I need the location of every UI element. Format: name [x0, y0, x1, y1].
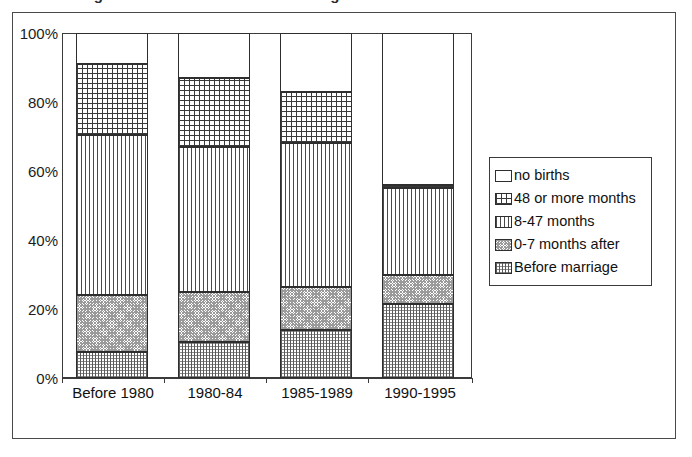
segment-48-or-more-months — [178, 78, 250, 147]
x-tick-label-1985-1989: 1985-1989 — [266, 384, 368, 401]
segment-no-births — [178, 33, 250, 78]
segment-48-or-more-months — [382, 185, 454, 189]
segment-8-47-months — [178, 147, 250, 292]
x-tick-label-1990-1995: 1990-1995 — [368, 384, 472, 401]
legend-label-48-or-more-months: 48 or more months — [514, 191, 636, 206]
y-tick-label-20: 20% — [28, 301, 58, 318]
bar-before-1980[interactable] — [76, 33, 148, 378]
legend-label-8-47-months: 8-47 months — [514, 214, 595, 229]
y-tick-label-80: 80% — [28, 94, 58, 111]
legend-item-no-births[interactable]: no births — [495, 164, 646, 187]
bar-1980-84[interactable] — [178, 33, 250, 378]
segment-8-47-months — [382, 188, 454, 274]
y-tick-label-0: 0% — [36, 370, 58, 387]
segment-0-7-months — [382, 275, 454, 304]
y-tick-label-60: 60% — [28, 163, 58, 180]
segment-8-47-months — [76, 135, 148, 295]
legend-label-before-marriage: Before marriage — [514, 260, 618, 275]
legend-item-48-or-more-months[interactable]: 48 or more months — [495, 187, 646, 210]
segment-0-7-months — [280, 287, 352, 330]
y-axis: 100% 80% 60% 40% 20% 0% — [0, 0, 58, 457]
x-axis-line — [62, 378, 473, 379]
segment-no-births — [382, 33, 454, 185]
x-tick-label-before-1980: Before 1980 — [62, 384, 164, 401]
x-tick-mark-2 — [164, 378, 165, 383]
legend-swatch-0-7-months-after-icon — [495, 239, 512, 251]
segment-48-or-more-months — [76, 64, 148, 135]
legend-item-before-marriage[interactable]: Before marriage — [495, 256, 646, 279]
legend-swatch-before-marriage-icon — [495, 262, 512, 274]
segment-0-7-months — [76, 295, 148, 352]
legend-item-8-47-months[interactable]: 8-47 months — [495, 210, 646, 233]
legend-swatch-no-births-icon — [495, 170, 512, 182]
legend-label-no-births: no births — [514, 168, 570, 183]
segment-0-7-months — [178, 292, 250, 342]
segment-48-or-more-months — [280, 92, 352, 144]
y-tick-label-100: 100% — [20, 25, 58, 42]
legend-item-0-7-months-after[interactable]: 0-7 months after — [495, 233, 646, 256]
x-tick-mark-4 — [368, 378, 369, 383]
x-tick-mark-1 — [62, 378, 63, 383]
page-title: Timing of first birth relative to marria… — [52, 0, 349, 3]
legend-swatch-8-47-months-icon — [495, 216, 512, 228]
legend: no births 48 or more months 8-47 months … — [489, 157, 652, 286]
segment-before-marriage — [382, 304, 454, 378]
segment-no-births — [280, 33, 352, 92]
x-tick-mark-5 — [472, 378, 473, 383]
bar-1985-1989[interactable] — [280, 33, 352, 378]
x-tick-mark-3 — [266, 378, 267, 383]
segment-before-marriage — [76, 352, 148, 378]
segment-no-births — [76, 33, 148, 64]
y-tick-label-40: 40% — [28, 232, 58, 249]
segment-before-marriage — [280, 330, 352, 378]
segment-8-47-months — [280, 143, 352, 286]
legend-swatch-48-or-more-months-icon — [495, 193, 512, 205]
legend-label-0-7-months-after: 0-7 months after — [514, 237, 620, 252]
segment-before-marriage — [178, 342, 250, 378]
x-tick-label-1980-84: 1980-84 — [164, 384, 266, 401]
chart-title-strip: Timing of first birth relative to marria… — [0, 0, 692, 11]
bar-1990-1995[interactable] — [382, 33, 454, 378]
plot-area — [62, 33, 472, 378]
